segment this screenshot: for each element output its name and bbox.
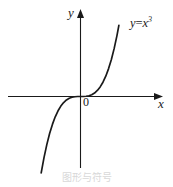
y-axis-arrowhead bbox=[77, 9, 84, 18]
origin-label: 0 bbox=[83, 96, 89, 108]
figure-caption: 图形与符号 bbox=[0, 172, 173, 186]
curve-equation-label: y=x3 bbox=[130, 16, 152, 30]
cubic-function-figure: y x 0 y=x3 图形与符号 bbox=[0, 0, 173, 187]
x-axis-label: x bbox=[158, 97, 164, 110]
curve-label-exponent: 3 bbox=[148, 15, 152, 24]
y-axis-label: y bbox=[68, 6, 74, 19]
